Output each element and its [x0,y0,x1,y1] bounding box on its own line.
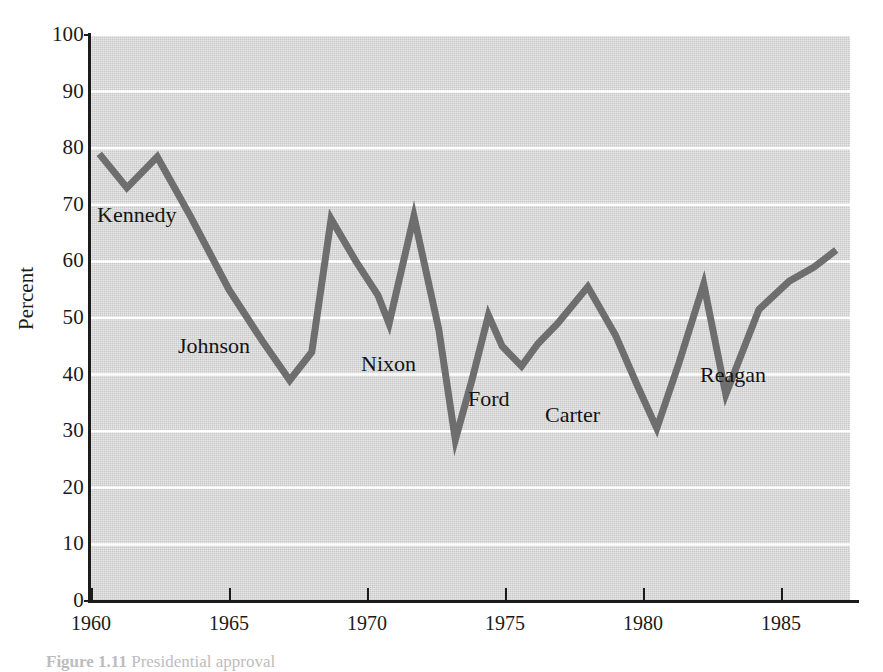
y-tick-mark [84,34,91,36]
annotation-carter: Carter [545,403,600,427]
x-tick-label: 1965 [184,612,274,634]
x-axis-line [88,600,859,603]
y-tick-label: 70 [4,194,84,215]
y-tick-label: 0 [4,590,84,611]
x-tick-label: 1985 [736,612,826,634]
annotation-ford: Ford [468,387,510,411]
gridlines [91,35,850,544]
y-tick-label: 80 [4,137,84,158]
x-tick-label: 1975 [460,612,550,634]
y-tick-mark [84,600,91,602]
y-tick-label: 20 [4,477,84,498]
y-tick-label: 10 [4,533,84,554]
chart-canvas [91,35,850,601]
annotation-johnson: Johnson [178,334,250,358]
y-axis-title: Percent [14,239,39,359]
y-tick-label: 90 [4,81,84,102]
x-tick-mark [229,588,231,601]
x-tick-mark [505,588,507,601]
x-tick-label: 1980 [598,612,688,634]
annotation-kennedy: Kennedy [97,203,176,227]
y-tick-label: 100 [4,24,84,45]
y-tick-label: 40 [4,364,84,385]
y-tick-label: 30 [4,420,84,441]
annotation-nixon: Nixon [361,352,416,376]
annotation-reagan: Reagan [700,363,766,387]
x-tick-mark [91,588,93,601]
x-tick-label: 1960 [46,612,136,634]
figure-caption: Figure 1.11 Presidential approval [46,652,275,672]
plot-area [91,35,850,601]
figure-caption-label: Figure 1.11 [46,652,127,671]
figure-caption-text: Presidential approval [131,652,275,671]
x-tick-mark [643,588,645,601]
x-tick-label: 1970 [322,612,412,634]
y-axis-line [88,33,91,603]
x-tick-mark [367,588,369,601]
x-tick-mark [781,588,783,601]
